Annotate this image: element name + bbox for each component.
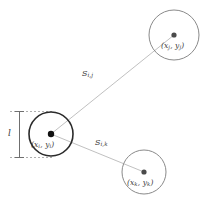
diagram-svg (0, 0, 206, 203)
node-center-dot-i (48, 131, 54, 137)
edge-label-ij-sub: i,j (87, 72, 92, 78)
node-center-dot-k (141, 169, 146, 174)
edge-label-ik-sub: i,k (100, 141, 107, 147)
node-label-i-end: ) (51, 140, 54, 149)
edge-label-ik: Si,k (95, 138, 108, 147)
node-label-k: (xk, yk) (127, 178, 153, 187)
dimension-marker-group (10, 111, 53, 158)
edge-label-ij: Si,j (82, 69, 93, 78)
dimension-label-l: l (8, 128, 11, 138)
node-center-dot-j (171, 32, 176, 37)
node-label-i: (xi, yi) (31, 140, 54, 149)
node-label-i-mid: , y (40, 140, 49, 149)
connector-line-ij (51, 35, 174, 134)
node-label-j-end: ) (181, 41, 184, 50)
node-label-k-mid: , y (138, 178, 147, 187)
node-label-k-end: ) (150, 178, 153, 187)
diagram-canvas: (xj, yj) (xi, yi) (xk, yk) Si,j Si,k l (0, 0, 206, 203)
node-label-j: (xj, yj) (161, 41, 184, 50)
